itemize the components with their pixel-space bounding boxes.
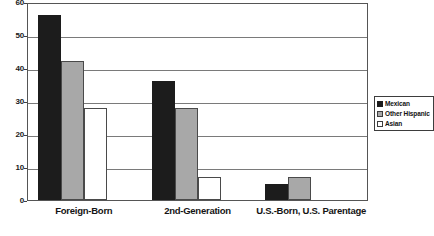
legend-item: Mexican [377,99,430,108]
plot-area [27,3,368,201]
y-axis-tick-label: 50 [2,32,24,40]
bar [61,61,84,200]
x-axis-tick-label: Foreign-Born [27,205,141,216]
y-axis: 6050403020100 [0,0,24,236]
y-axis-tick-mark [24,201,27,202]
legend-item: Asian [377,119,430,128]
bar [38,15,61,200]
legend: MexicanOther HispanicAsian [374,96,434,131]
y-axis-tick-mark [24,3,27,4]
y-axis-tick-label: 20 [2,131,24,139]
bar [84,108,107,200]
bar [198,177,221,200]
legend-item: Other Hispanic [377,109,430,118]
bar-group [142,4,256,200]
bar [175,108,198,200]
y-axis-tick-mark [24,102,27,103]
bars-layer [28,4,367,200]
legend-item-label: Mexican [385,100,410,107]
bar-group [28,4,142,200]
y-axis-tick-mark [24,135,27,136]
y-axis-tick-label: 30 [2,98,24,106]
legend-swatch-mexican [377,101,383,107]
legend-swatch-other-hispanic [377,111,383,117]
legend-item-label: Other Hispanic [385,110,430,117]
bar [152,81,175,200]
x-axis-tick-label: U.S.-Born, U.S. Parentage [254,205,368,216]
y-axis-tick-label: 60 [2,0,24,7]
bar [265,184,288,201]
legend-item-label: Asian [385,120,402,127]
y-axis-tick-label: 40 [2,65,24,73]
bar-group [255,4,369,200]
y-axis-tick-mark [24,168,27,169]
y-axis-tick-label: 0 [2,197,24,205]
x-axis: Foreign-Born2nd-GenerationU.S.-Born, U.S… [27,205,368,225]
x-axis-tick-label: 2nd-Generation [141,205,255,216]
bar [288,177,311,200]
y-axis-tick-label: 10 [2,164,24,172]
y-axis-tick-mark [24,36,27,37]
y-axis-tick-mark [24,69,27,70]
legend-swatch-asian [377,121,383,127]
